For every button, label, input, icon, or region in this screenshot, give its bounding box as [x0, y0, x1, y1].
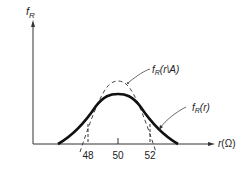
tick-label-48: 48 — [82, 150, 94, 161]
pdf-leader — [160, 107, 186, 128]
y-axis-arrow-icon — [31, 20, 35, 27]
conditional-pdf-leader-dot-icon — [127, 82, 129, 84]
conditional-pdf-label: fR(r\A) — [152, 64, 179, 76]
diagram-canvas: fR r(Ω) 48 50 52 fR(r\A) fR(r) — [0, 0, 248, 171]
y-axis-label: fR — [26, 5, 35, 20]
tick-label-52: 52 — [144, 150, 156, 161]
pdf-curve — [58, 94, 178, 144]
conditional-pdf-leader — [129, 69, 150, 82]
tick-label-50: 50 — [112, 150, 124, 161]
x-axis-label: r(Ω) — [218, 138, 235, 149]
x-axis-arrow-icon — [208, 142, 215, 146]
pdf-label: fR(r) — [192, 102, 210, 114]
pdf-leader-arrow-icon — [159, 125, 163, 130]
